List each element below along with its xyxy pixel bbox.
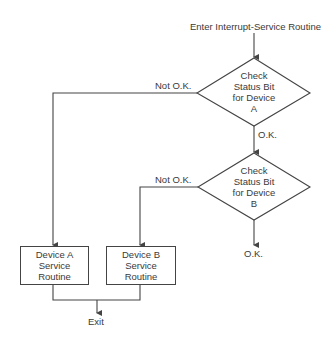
- decision-b-line: B: [214, 198, 294, 209]
- decision-b-text: Check Status Bit for Device B: [214, 165, 294, 209]
- process-a-line: Device A: [36, 249, 74, 260]
- process-b-line: Service: [125, 260, 157, 271]
- decision-a-notok-path: [53, 93, 197, 245]
- decision-b-line: for Device: [214, 187, 294, 198]
- decision-a-line: for Device: [214, 92, 294, 103]
- process-b-line: Routine: [125, 271, 158, 282]
- decision-a-line: A: [214, 103, 294, 114]
- decision-a-ok-label: O.K.: [258, 129, 277, 140]
- decision-a-line: Status Bit: [214, 81, 294, 92]
- decision-b-ok-label: O.K.: [244, 248, 263, 259]
- decision-b-notok-path: [140, 187, 198, 245]
- decision-b-line: Status Bit: [214, 176, 294, 187]
- process-b-line: Device B: [122, 249, 160, 260]
- decision-a-line: Check: [214, 70, 294, 81]
- decision-b-notok-label: Not O.K.: [155, 174, 191, 185]
- process-box-device-a: Device A Service Routine: [20, 246, 89, 285]
- process-box-device-b: Device B Service Routine: [106, 246, 176, 285]
- join-line: [53, 284, 140, 300]
- decision-a-text: Check Status Bit for Device A: [214, 70, 294, 114]
- exit-label: Exit: [88, 316, 104, 327]
- decision-b-line: Check: [214, 165, 294, 176]
- decision-a-notok-label: Not O.K.: [155, 80, 191, 91]
- process-a-line: Routine: [38, 271, 71, 282]
- process-a-line: Service: [39, 260, 71, 271]
- start-label: Enter Interrupt-Service Routine: [190, 21, 321, 32]
